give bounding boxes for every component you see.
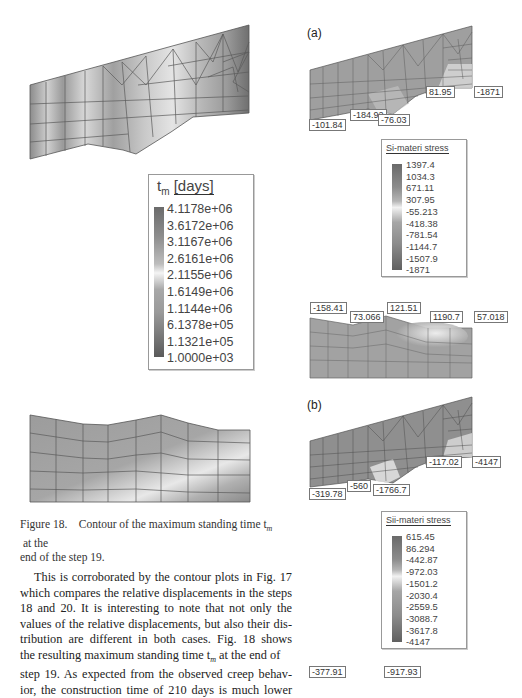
value-label: -117.02: [426, 456, 462, 468]
legend-value: -781.54: [406, 229, 438, 241]
legend-value: -972.03: [406, 566, 438, 578]
panel-a-mesh: [308, 24, 478, 126]
text-segment: at the end of: [216, 648, 280, 662]
text-line: which compares the relative displacement…: [20, 586, 292, 602]
text-line: the resulting maximum standing time tm a…: [20, 648, 292, 668]
caption-subscript: m: [267, 524, 273, 533]
legend-value: -4147: [406, 636, 438, 648]
legend-value: 671.11: [406, 182, 438, 194]
caption-line-2: end of the step 19.: [20, 550, 290, 564]
text-line: ior, the construction time of 210 days i…: [20, 683, 292, 698]
figure-18-caption: Figure 18. Contour of the maximum standi…: [20, 517, 290, 564]
legend-value: -442.87: [406, 554, 438, 566]
legend-value: 1.0000e+03: [167, 350, 233, 367]
legend-colorbar: [154, 207, 164, 357]
value-label: -158.41: [310, 302, 347, 314]
text-segment: the resulting maximum standing time t: [20, 648, 210, 662]
standing-time-legend: tm [days] 4.1178e+06 3.6172e+06 3.1167e+…: [148, 174, 254, 370]
text-line: values of the relative displacements, bu…: [20, 617, 292, 633]
value-label: 1190.7: [430, 311, 463, 323]
legend-value: 1.1321e+05: [167, 334, 233, 351]
text-line: tribution are different in both cases. F…: [20, 632, 292, 648]
value-label: -1766.7: [373, 484, 410, 496]
caption-text: Figure 18. Contour of the maximum standi…: [20, 518, 267, 530]
legend-title-unit: [days]: [174, 177, 214, 195]
legend-value: 307.95: [406, 194, 438, 206]
value-label: 57.018: [474, 311, 508, 323]
legend-value: -3088.7: [406, 613, 438, 625]
legend-value: 1397.4: [406, 159, 438, 171]
legend-values: 4.1178e+06 3.6172e+06 3.1167e+06 2.6161e…: [167, 201, 233, 367]
legend-title: Sii-materi stress: [386, 515, 451, 525]
value-label: -560: [347, 480, 371, 492]
legend-value: -1501.2: [406, 578, 438, 590]
body-paragraph: This is corroborated by the contour plot…: [20, 570, 292, 698]
legend-values: 1397.4 1034.3 671.11 307.95 -55.213 -418…: [406, 159, 438, 276]
value-label: -4147: [472, 456, 501, 468]
legend-title-text: Si-materi stress: [386, 143, 449, 154]
legend-value: 1.1144e+06: [167, 301, 233, 318]
contour-plot-standing-time: [28, 22, 253, 162]
panel-b-legend: Sii-materi stress 615.45 86.294 -442.87 …: [381, 511, 467, 649]
value-label: -377.91: [309, 666, 346, 678]
legend-title: Si-materi stress: [386, 143, 449, 153]
legend-title-text: Sii-materi stress: [386, 515, 451, 526]
value-label: -1871: [474, 86, 503, 98]
legend-colorbar: [392, 164, 402, 270]
legend-value: 615.45: [406, 531, 438, 543]
legend-value: 1.6149e+06: [167, 284, 233, 301]
value-label: 73.066: [350, 311, 384, 323]
legend-colorbar: [392, 536, 402, 642]
legend-values: 615.45 86.294 -442.87 -972.03 -1501.2 -2…: [406, 531, 438, 648]
legend-value: -3617.8: [406, 625, 438, 637]
value-label: 81.95: [426, 86, 455, 98]
legend-title-sub: m: [161, 186, 169, 197]
legend-value: -1144.7: [406, 241, 438, 253]
text-line: This is corroborated by the contour plot…: [20, 570, 292, 586]
value-label: 121.51: [387, 302, 421, 314]
legend-value: 2.6161e+06: [167, 251, 233, 268]
panel-b-mesh: [308, 395, 478, 497]
legend-value: 3.6172e+06: [167, 218, 233, 235]
legend-value: -2559.5: [406, 601, 438, 613]
text-line: 18 and 20. It is interesting to note tha…: [20, 601, 292, 617]
legend-value: 2.1155e+06: [167, 267, 233, 284]
value-label: -319.78: [309, 488, 346, 500]
panel-a-legend: Si-materi stress 1397.4 1034.3 671.11 30…: [381, 139, 467, 277]
legend-value: -1871: [406, 264, 438, 276]
value-label: -917.93: [384, 666, 421, 678]
legend-value: 6.1378e+05: [167, 317, 233, 334]
legend-title: tm [days]: [157, 177, 214, 197]
legend-value: -1507.9: [406, 253, 438, 265]
legend-value: 4.1178e+06: [167, 201, 233, 218]
legend-value: 3.1167e+06: [167, 234, 233, 251]
legend-value: -55.213: [406, 206, 438, 218]
legend-value: -418.38: [406, 218, 438, 230]
legend-value: 1034.3: [406, 171, 438, 183]
caption-text-tail: at the: [20, 537, 48, 549]
legend-value: 86.294: [406, 543, 438, 555]
value-label: -101.84: [309, 119, 346, 131]
legend-value: -2030.4: [406, 590, 438, 602]
contour-plot-lower-section: [28, 405, 252, 505]
text-line: step 19. As expected from the observed c…: [20, 667, 292, 683]
caption-line-1: Figure 18. Contour of the maximum standi…: [20, 517, 290, 550]
value-label: -76.03: [378, 114, 410, 126]
